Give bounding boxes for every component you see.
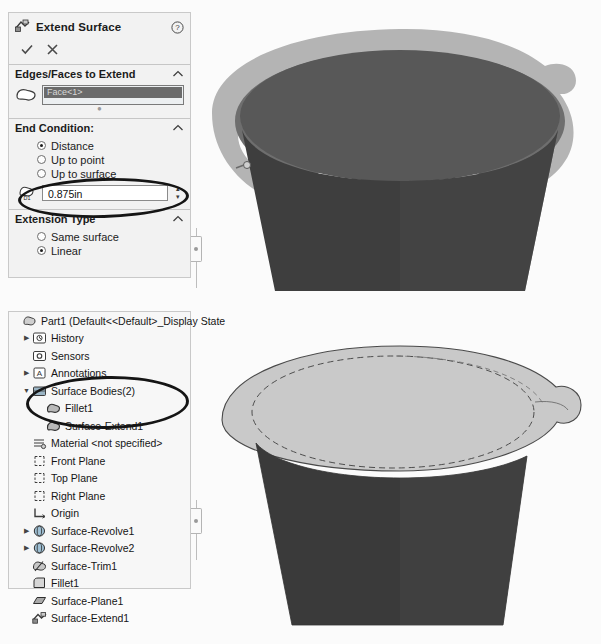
spinner-down-icon[interactable]: ▾	[176, 193, 180, 200]
feature-tree-item[interactable]: ▶AAnnotations	[9, 365, 190, 383]
help-icon[interactable]: ?	[171, 21, 184, 34]
radio-distance[interactable]: Distance	[37, 139, 184, 152]
expand-arrow-icon[interactable]: ▶	[21, 544, 32, 552]
feature-tree-item-label: Right Plane	[51, 490, 105, 502]
feature-tree-item[interactable]: Surface-Trim1	[9, 557, 190, 575]
plane-icon	[32, 454, 47, 468]
section-header-end-condition[interactable]: End Condition:	[9, 119, 190, 136]
radio-indicator[interactable]	[37, 141, 46, 150]
feature-tree-item[interactable]: Fillet1	[9, 400, 190, 418]
feature-tree-item-label: Front Plane	[51, 455, 105, 467]
feature-tree-root[interactable]: Part1 (Default<<Default>_Display State	[9, 312, 190, 330]
feature-tree-item-label: History	[51, 332, 84, 344]
selection-listbox[interactable]: Face<1>	[42, 85, 184, 105]
surface-plane-icon	[32, 594, 47, 608]
expand-arrow-icon[interactable]: ▶	[21, 527, 32, 535]
feature-tree-item-label: Surface-Revolve2	[51, 542, 134, 554]
selection-row: Face<1>	[15, 85, 184, 105]
feature-tree-item[interactable]: Surface-Plane1	[9, 592, 190, 610]
history-icon	[32, 331, 47, 345]
radio-indicator[interactable]	[37, 246, 46, 255]
feature-tree-item-label: Surface-Revolve1	[51, 525, 134, 537]
distance-spinner[interactable]: ▴ ▾	[173, 185, 182, 200]
feature-tree-panel: Part1 (Default<<Default>_Display State▶H…	[8, 311, 191, 589]
feature-tree-item-label: Surface-Extend1	[65, 420, 143, 432]
radio-indicator[interactable]	[37, 169, 46, 178]
distance-input[interactable]: 0.875in	[42, 185, 168, 201]
feature-tree-item[interactable]: ▶Surface-Revolve1	[9, 522, 190, 540]
surface-trim-icon	[32, 559, 47, 573]
feature-tree-item-label: Material <not specified>	[51, 437, 162, 449]
feature-tree-item[interactable]: Top Plane	[9, 470, 190, 488]
surface-revolve-icon	[32, 524, 47, 538]
feature-tree-item[interactable]: Front Plane	[9, 452, 190, 470]
splitter-dot	[194, 519, 198, 523]
radio-up-to-surface[interactable]: Up to surface	[37, 167, 184, 180]
panel-splitter-tree[interactable]	[191, 500, 203, 560]
section-body-extension-type: Same surface Linear	[9, 227, 190, 263]
radio-label-same-surface: Same surface	[51, 231, 119, 243]
radio-indicator[interactable]	[37, 232, 46, 241]
extended-flange-surface	[222, 346, 581, 471]
svg-text:?: ?	[175, 23, 180, 32]
section-body-end-condition: Distance Up to point Up to surface D1 0.…	[9, 136, 190, 208]
chevron-up-icon[interactable]	[172, 68, 184, 80]
spinner-up-icon[interactable]: ▴	[176, 185, 180, 192]
chevron-up-icon[interactable]	[172, 122, 184, 134]
feature-tree-item-label: Surface-Extend1	[51, 612, 129, 624]
feature-tree-item[interactable]: ▶History	[9, 330, 190, 348]
expand-arrow-open-icon[interactable]: ▼	[21, 387, 32, 394]
dimension-d1-icon: D1	[17, 184, 37, 201]
feature-tree-item[interactable]: Right Plane	[9, 487, 190, 505]
feature-tree-item[interactable]: Origin	[9, 505, 190, 523]
feature-tree-item-label: Top Plane	[51, 472, 98, 484]
expand-arrow-icon[interactable]: ▶	[21, 369, 32, 377]
feature-tree-item[interactable]: Material <not specified>	[9, 435, 190, 453]
feature-tree-item-label: Fillet1	[51, 577, 79, 589]
panel-splitter-top[interactable]	[191, 228, 203, 288]
radio-label-linear: Linear	[51, 245, 82, 257]
preview-viewport[interactable]	[200, 18, 600, 318]
expand-arrow-icon[interactable]: ▶	[21, 334, 32, 342]
radio-same-surface[interactable]: Same surface	[37, 230, 184, 243]
dimension-d1-label: D1	[24, 195, 31, 201]
feature-tree-item[interactable]: Fillet1	[9, 575, 190, 593]
resize-grip[interactable]: ●	[15, 105, 184, 112]
section-title-extension-type: Extension Type	[15, 213, 95, 225]
body-wall-shade	[400, 456, 527, 625]
feature-tree-item[interactable]: Surface-Extend1	[9, 417, 190, 435]
feature-tree-item[interactable]: Sensors	[9, 347, 190, 365]
feature-tree-item[interactable]: ▼Surface Bodies(2)	[9, 382, 190, 400]
feature-tree-item-label: Surface Bodies(2)	[51, 385, 135, 397]
result-viewport[interactable]	[200, 330, 600, 644]
plane-icon	[32, 489, 47, 503]
radio-linear[interactable]: Linear	[37, 244, 184, 257]
feature-tree-item[interactable]: Surface-Extend1	[9, 610, 190, 628]
cancel-button[interactable]	[47, 44, 58, 57]
chevron-up-icon[interactable]	[172, 213, 184, 225]
property-manager-panel: Extend Surface ? Edges/Faces to Extend	[8, 12, 191, 278]
origin-icon	[32, 506, 47, 520]
selected-top-face	[240, 50, 560, 182]
plane-icon	[32, 471, 47, 485]
selection-item-face[interactable]: Face<1>	[44, 87, 182, 98]
radio-indicator[interactable]	[37, 155, 46, 164]
radio-label-up-to-surface: Up to surface	[51, 168, 116, 180]
section-header-edges-faces[interactable]: Edges/Faces to Extend	[9, 65, 190, 82]
property-manager-header: Extend Surface ?	[9, 16, 190, 38]
sensors-icon	[32, 349, 47, 363]
feature-tree-item-label: Sensors	[51, 350, 90, 362]
section-title-end-condition: End Condition:	[15, 122, 94, 134]
fillet-icon	[32, 576, 47, 590]
radio-label-up-to-point: Up to point	[51, 154, 104, 166]
section-title-edges-faces: Edges/Faces to Extend	[15, 68, 135, 80]
feature-tree-item-label: Annotations	[51, 367, 106, 379]
feature-tree-item[interactable]: ▶Surface-Revolve2	[9, 540, 190, 558]
feature-tree-item-label: Surface-Trim1	[51, 560, 117, 572]
face-selection-icon	[15, 87, 37, 103]
accept-button[interactable]	[21, 44, 33, 57]
section-header-extension-type[interactable]: Extension Type	[9, 210, 190, 227]
radio-up-to-point[interactable]: Up to point	[37, 153, 184, 166]
feature-tree-rows: Part1 (Default<<Default>_Display State▶H…	[9, 312, 190, 627]
surface-extend-icon	[32, 611, 47, 625]
